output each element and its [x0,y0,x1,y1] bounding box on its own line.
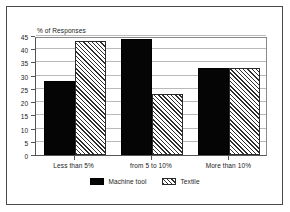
gridline [36,35,266,36]
y-tick-label: 5 [24,139,28,146]
y-tick-label: 40 [21,47,28,54]
y-tick-label: 15 [21,113,28,120]
bars-layer [36,38,266,155]
y-tick-label: 45 [21,34,28,41]
plot-area [35,37,267,156]
y-tick-label: 30 [21,73,28,80]
y-tick-label: 0 [24,153,28,160]
x-tick-label: from 5 to 10% [130,162,172,169]
legend-label: Machine tool [108,178,146,185]
bar-machine-tool [44,81,75,155]
chart-screenshot: % of Responses 051015202530354045 Less t… [0,0,290,212]
x-axis: Less than 5%from 5 to 10%More than 10% [35,157,267,173]
legend-label: Textile [180,178,199,185]
y-tick-label: 10 [21,126,28,133]
x-tick-mark [74,156,75,160]
y-axis: 051015202530354045 [0,37,35,156]
bar-machine-tool [121,39,152,155]
bar-textile [152,94,183,155]
bar-chart-figure: % of Responses 051015202530354045 Less t… [0,0,290,212]
x-tick-label: More than 10% [206,162,251,169]
x-tick-mark [151,156,152,160]
y-tick-label: 35 [21,60,28,67]
legend-item[interactable]: Textile [162,178,199,185]
bar-machine-tool [198,68,229,155]
legend-item[interactable]: Machine tool [90,178,146,185]
bar-textile [229,68,260,155]
hatched-swatch [162,178,176,185]
y-tick-label: 20 [21,100,28,107]
x-tick-label: Less than 5% [53,162,94,169]
y-axis-title: % of Responses [37,27,86,34]
solid-black-swatch [90,178,104,185]
bar-textile [75,41,106,155]
y-tick-label: 25 [21,86,28,93]
chart-legend: Machine toolTextile [0,178,290,185]
x-tick-mark [228,156,229,160]
